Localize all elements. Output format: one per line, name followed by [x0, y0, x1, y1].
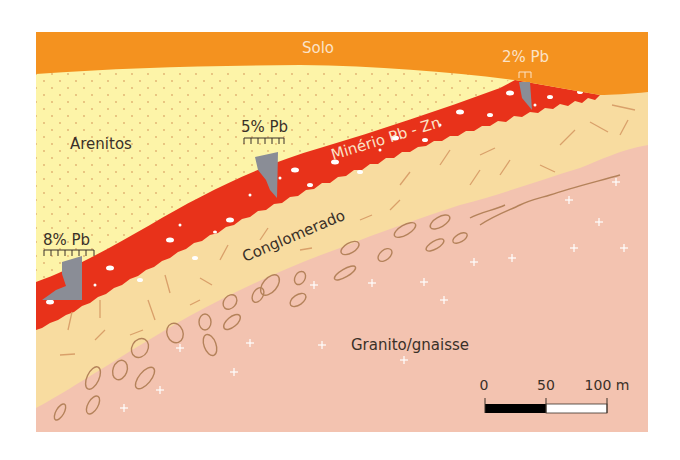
geological-cross-section: Solo Arenitos Minério Pb - Zn Conglomera… [0, 0, 680, 460]
sample-label-8pct: 8% Pb [43, 231, 90, 249]
scale-tick-50: 50 [537, 377, 555, 393]
scale-segment-white [546, 404, 607, 413]
sample-label-2pct: 2% Pb [502, 48, 549, 66]
layer-label-arenitos: Arenitos [70, 135, 132, 153]
layer-label-solo: Solo [302, 39, 334, 57]
scale-tick-100: 100 m [585, 377, 630, 393]
scale-segment-black [485, 404, 546, 413]
sample-label-5pct: 5% Pb [241, 118, 288, 136]
layer-label-granito: Granito/gnaisse [351, 336, 469, 354]
scale-tick-0: 0 [480, 377, 489, 393]
